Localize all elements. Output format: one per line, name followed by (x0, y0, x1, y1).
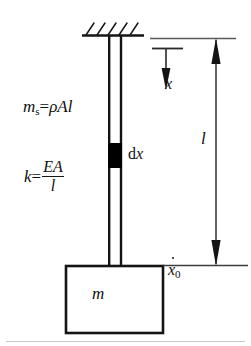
fixed-support-hatching (86, 23, 138, 35)
dx-element-label: dx (128, 146, 143, 162)
dx-element (108, 143, 122, 168)
bar-mass-symbol: m (23, 97, 35, 116)
coordinate-label-x: x (165, 76, 172, 92)
mass-block (66, 266, 163, 333)
bar-mass-equals: = (40, 97, 50, 116)
bar-mass-vibration-diagram: ms=ρAl k= EA l dx x l x0 m (0, 0, 251, 346)
stiffness-label: k= EA l (24, 159, 64, 194)
stiffness-equals: = (32, 168, 42, 185)
end-mass-label: m (92, 285, 104, 302)
length-label-l: l (201, 130, 206, 147)
dx-x: x (136, 145, 143, 162)
stiffness-fraction: EA l (42, 159, 64, 194)
base-velocity-base: x (168, 262, 175, 278)
base-velocity-subscript: 0 (175, 268, 181, 280)
bar-mass-expression: ρAl (49, 97, 72, 116)
bar-mass-label: ms=ρAl (23, 98, 72, 117)
dx-d: d (128, 145, 136, 162)
base-velocity-label: x0 (168, 262, 181, 280)
stiffness-denominator: l (50, 178, 56, 194)
stiffness-symbol: k (24, 168, 32, 185)
stiffness-numerator: EA (42, 159, 64, 175)
length-dimension-l (211, 38, 220, 266)
